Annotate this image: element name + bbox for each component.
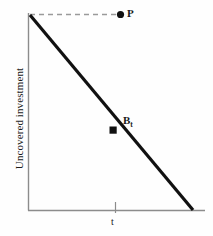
uncovered-investment-line xyxy=(30,15,193,210)
point-b-subscript: t xyxy=(130,120,133,129)
uncovered-investment-figure: P Bt t Uncovered investment xyxy=(0,0,213,236)
point-b-label: Bt xyxy=(123,115,133,129)
point-p-label: P xyxy=(127,8,134,19)
point-p-marker xyxy=(117,11,124,18)
x-axis-tick-label: t xyxy=(111,217,114,227)
y-axis-label: Uncovered investment xyxy=(14,55,25,183)
plot-canvas xyxy=(0,0,213,236)
point-b-marker xyxy=(110,127,117,134)
